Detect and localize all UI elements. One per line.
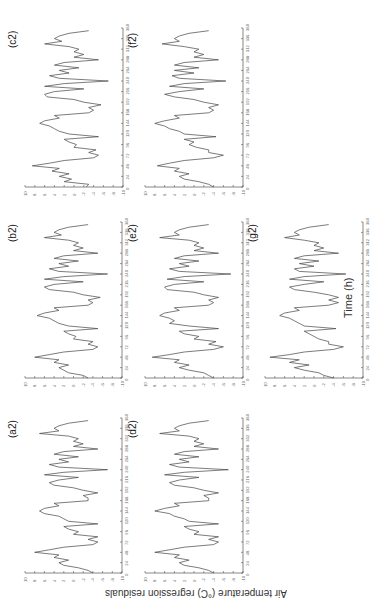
svg-text:240: 240	[124, 465, 129, 473]
svg-text:72: 72	[124, 344, 129, 349]
panel-e2: 1086420-2-4-6-8-100244872961201441681922…	[145, 222, 257, 392]
svg-text:120: 120	[124, 517, 129, 525]
svg-text:-4: -4	[211, 578, 216, 582]
svg-text:-6: -6	[221, 192, 226, 196]
svg-text:24: 24	[245, 560, 250, 565]
svg-text:144: 144	[365, 311, 370, 319]
svg-text:0: 0	[192, 384, 197, 387]
svg-text:144: 144	[245, 311, 250, 319]
svg-text:8: 8	[32, 579, 37, 582]
svg-text:8: 8	[272, 384, 277, 387]
svg-text:4: 4	[172, 384, 177, 387]
panel-f2: 1086420-2-4-6-8-100244872961201441681922…	[145, 28, 257, 201]
svg-text:0: 0	[71, 384, 76, 387]
svg-text:264: 264	[365, 259, 370, 267]
svg-text:-8: -8	[110, 578, 115, 582]
svg-text:0: 0	[312, 384, 317, 387]
residual-trace	[32, 31, 108, 187]
panel-label: (b2)	[7, 224, 18, 242]
svg-text:120: 120	[245, 129, 250, 137]
svg-text:0: 0	[125, 187, 130, 190]
panel-label: (d2)	[127, 420, 138, 438]
svg-text:-2: -2	[321, 383, 326, 387]
svg-text:4: 4	[292, 384, 297, 387]
svg-text:192: 192	[124, 486, 129, 494]
svg-text:2: 2	[182, 579, 187, 582]
svg-text:6: 6	[162, 579, 167, 582]
svg-text:6: 6	[162, 193, 167, 196]
svg-text:-6: -6	[100, 383, 105, 387]
svg-text:-2: -2	[201, 192, 206, 196]
svg-text:-4: -4	[90, 578, 95, 582]
panel-label: (g2)	[247, 224, 258, 242]
svg-text:48: 48	[365, 355, 370, 360]
svg-text:288: 288	[245, 444, 250, 452]
svg-text:312: 312	[365, 238, 370, 246]
svg-text:216: 216	[125, 87, 130, 95]
svg-text:10: 10	[143, 191, 148, 196]
svg-text:10: 10	[23, 577, 28, 582]
svg-text:4: 4	[52, 384, 57, 387]
residual-trace	[155, 31, 226, 187]
svg-text:72: 72	[245, 153, 250, 158]
svg-text:360: 360	[245, 413, 250, 421]
svg-text:336: 336	[245, 424, 250, 432]
svg-text:96: 96	[245, 142, 250, 147]
svg-text:192: 192	[124, 290, 129, 298]
svg-text:24: 24	[245, 365, 250, 370]
svg-text:24: 24	[124, 365, 129, 370]
residual-trace	[152, 225, 231, 378]
svg-text:72: 72	[365, 344, 370, 349]
svg-text:120: 120	[365, 321, 370, 329]
svg-text:2: 2	[302, 384, 307, 387]
svg-text:10: 10	[23, 191, 28, 196]
residual-trace	[270, 225, 346, 378]
svg-text:-6: -6	[101, 192, 106, 196]
svg-text:2: 2	[61, 579, 66, 582]
svg-text:168: 168	[245, 108, 250, 116]
svg-text:264: 264	[245, 259, 250, 267]
svg-text:216: 216	[124, 475, 129, 483]
svg-text:48: 48	[125, 163, 130, 168]
svg-text:120: 120	[245, 517, 250, 525]
svg-text:24: 24	[124, 560, 129, 565]
svg-text:360: 360	[365, 217, 370, 225]
svg-text:6: 6	[42, 384, 47, 387]
panel-d2: 1086420-2-4-6-8-100244872961201441681922…	[145, 418, 257, 587]
svg-text:192: 192	[125, 98, 130, 106]
svg-text:144: 144	[124, 506, 129, 514]
svg-text:4: 4	[172, 193, 177, 196]
svg-text:24: 24	[125, 174, 130, 179]
svg-text:168: 168	[245, 301, 250, 309]
panel-b2: 1086420-2-4-6-8-100244872961201441681922…	[25, 222, 136, 392]
svg-text:8: 8	[152, 384, 157, 387]
svg-text:72: 72	[125, 153, 130, 158]
svg-text:144: 144	[124, 311, 129, 319]
svg-text:264: 264	[124, 455, 129, 463]
svg-text:-2: -2	[81, 192, 86, 196]
svg-text:240: 240	[245, 269, 250, 277]
svg-text:2: 2	[61, 384, 66, 387]
residual-trace	[35, 421, 108, 573]
svg-text:264: 264	[124, 259, 129, 267]
panel-label: (e2)	[127, 224, 138, 242]
svg-text:288: 288	[245, 55, 250, 63]
svg-text:120: 120	[125, 129, 130, 137]
svg-text:48: 48	[124, 550, 129, 555]
svg-text:240: 240	[365, 269, 370, 277]
svg-text:-2: -2	[81, 578, 86, 582]
svg-text:-6: -6	[341, 383, 346, 387]
svg-text:96: 96	[124, 334, 129, 339]
svg-text:6: 6	[42, 193, 47, 196]
svg-text:24: 24	[245, 174, 250, 179]
svg-text:144: 144	[245, 506, 250, 514]
panel-label: (f2)	[127, 33, 138, 48]
x-axis-label: Time (h)	[342, 277, 354, 318]
residual-trace	[155, 421, 229, 573]
svg-text:-8: -8	[110, 383, 115, 387]
y-axis-label: Air temperature (°C) regression residual…	[0, 588, 392, 599]
svg-text:0: 0	[245, 378, 250, 381]
svg-text:48: 48	[245, 355, 250, 360]
svg-text:2: 2	[62, 193, 67, 196]
svg-text:288: 288	[125, 55, 130, 63]
